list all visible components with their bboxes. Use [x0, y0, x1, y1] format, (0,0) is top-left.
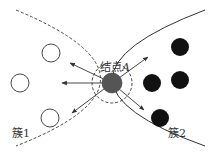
node-a-label: 结点A [100, 61, 130, 74]
arrow [72, 89, 104, 113]
cluster1-point [42, 44, 60, 62]
cluster2-points [143, 38, 189, 127]
cluster2-point [143, 74, 161, 92]
cluster1-boundary [16, 10, 101, 146]
arrow [70, 63, 103, 79]
cluster2-point [171, 38, 189, 56]
cluster1-points [11, 44, 60, 127]
cluster2-point [171, 71, 189, 89]
cluster2-label: 簇2 [168, 126, 186, 140]
cluster1-label: 簇1 [12, 126, 30, 140]
cluster2-point [151, 109, 169, 127]
cluster1-point [41, 109, 59, 127]
node-a [102, 73, 122, 93]
cluster1-point [11, 74, 29, 92]
arrow [120, 89, 144, 110]
cluster-diagram: 结点A 簇1 簇2 [0, 0, 215, 156]
